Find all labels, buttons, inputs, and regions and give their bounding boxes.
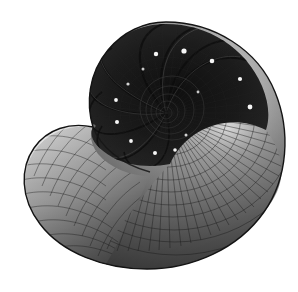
bottom-shadow: [0, 0, 298, 292]
image-canvas: Nautilus Shell Grayscale 3D rendered nau…: [0, 0, 298, 292]
nautilus-shell-illustration: Nautilus Shell Grayscale 3D rendered nau…: [0, 0, 298, 292]
shading-overlays: [0, 0, 298, 292]
